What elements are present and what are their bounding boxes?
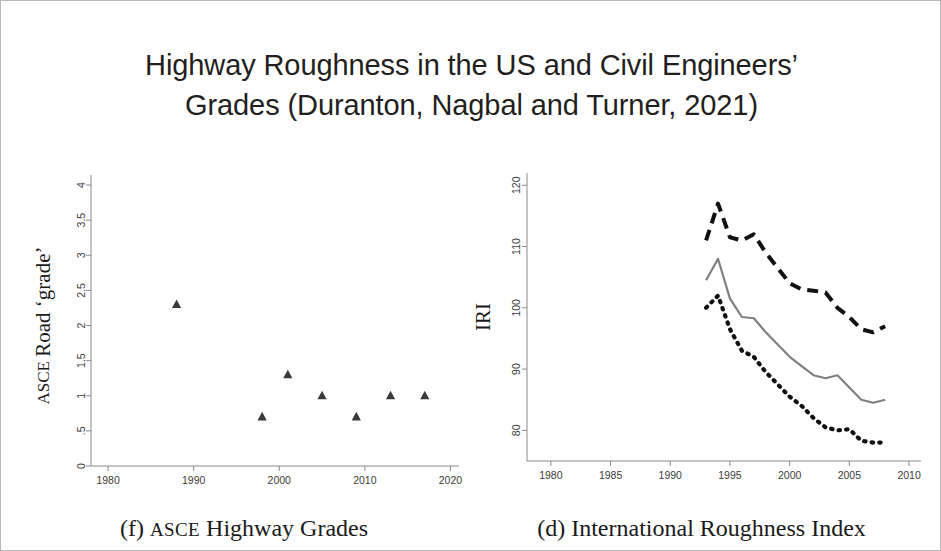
iri-caption: (d) International Roughness Index — [469, 515, 934, 542]
x-tick-label: 2000 — [778, 469, 802, 481]
scatter-marker — [386, 391, 395, 400]
y-tick-label: 1.5 — [75, 353, 87, 368]
y-tick-label: 120 — [510, 176, 522, 194]
scatter-marker — [258, 412, 267, 421]
scatter-marker — [172, 299, 181, 308]
x-tick-label: 1985 — [599, 469, 623, 481]
y-tick-label: 110 — [510, 238, 522, 255]
chart-international-roughness-index: 8090100110120198019851990199520002005201… — [469, 151, 934, 546]
x-tick-label: 2020 — [439, 474, 463, 486]
asce-grades-caption-prefix: (f) — [120, 515, 144, 541]
y-tick-label: 4 — [75, 182, 87, 188]
y-tick-label: 3 — [75, 252, 87, 258]
scatter-marker — [317, 391, 326, 400]
y-tick-label: 2.5 — [75, 283, 87, 298]
y-tick-label: 100 — [510, 299, 522, 317]
y-tick-label: 2 — [75, 322, 87, 328]
y-tick-label: 80 — [510, 424, 522, 436]
y-tick-label: 1 — [75, 393, 87, 399]
iri-plot: 8090100110120198019851990199520002005201… — [469, 151, 934, 506]
scatter-marker — [352, 412, 361, 421]
series-line — [706, 259, 885, 403]
x-tick-label: 1980 — [539, 469, 563, 481]
asce-grades-caption-smallcaps: ASCE — [150, 519, 200, 540]
svg-text:ASCE Road ‘grade’: ASCE Road ‘grade’ — [31, 247, 55, 405]
y-axis-title: ASCE Road ‘grade’ — [31, 247, 55, 405]
scatter-marker — [420, 391, 429, 400]
asce-grades-caption: (f) ASCE Highway Grades — [19, 515, 469, 542]
x-tick-label: 2010 — [353, 474, 377, 486]
x-tick-label: 2000 — [268, 474, 292, 486]
asce-grades-plot: 0.511.522.533.5419801990200020102020ASCE… — [19, 151, 469, 506]
x-tick-label: 1995 — [718, 469, 742, 481]
x-tick-label: 2005 — [838, 469, 862, 481]
page-title-line-1: Highway Roughness in the US and Civil En… — [1, 45, 941, 85]
series-line — [706, 204, 885, 333]
slide-canvas: Highway Roughness in the US and Civil En… — [0, 0, 941, 551]
chart-asce-grades: 0.511.522.533.5419801990200020102020ASCE… — [19, 151, 469, 546]
y-tick-label: 0 — [75, 463, 87, 469]
asce-grades-caption-suffix: Highway Grades — [206, 515, 368, 541]
y-axis-title: IRI — [471, 303, 495, 331]
x-tick-label: 1990 — [182, 474, 206, 486]
series-line — [706, 296, 885, 443]
iri-caption-prefix: (d) — [537, 515, 565, 541]
iri-caption-suffix: International Roughness Index — [571, 515, 866, 541]
page-title: Highway Roughness in the US and Civil En… — [1, 45, 941, 125]
x-tick-label: 1990 — [659, 469, 683, 481]
x-tick-label: 2010 — [897, 469, 921, 481]
y-tick-label: 3.5 — [75, 213, 87, 228]
y-tick-label: 90 — [510, 363, 522, 375]
y-tick-label: .5 — [75, 426, 87, 435]
scatter-marker — [283, 370, 292, 379]
x-tick-label: 1980 — [96, 474, 120, 486]
page-title-line-2: Grades (Duranton, Nagbal and Turner, 202… — [1, 85, 941, 125]
